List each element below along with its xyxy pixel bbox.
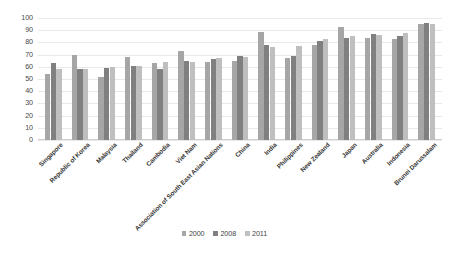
y-axis-tick-label: 100 xyxy=(21,14,33,21)
bars-layer xyxy=(38,18,442,140)
bar[interactable] xyxy=(136,66,141,140)
bar[interactable] xyxy=(285,58,290,140)
y-axis-tick-label: 70 xyxy=(25,51,33,58)
bar[interactable] xyxy=(131,66,136,140)
bar-group xyxy=(120,18,147,140)
bar[interactable] xyxy=(418,24,423,140)
legend-swatch-icon xyxy=(213,231,218,236)
bar-group xyxy=(93,18,120,140)
bar[interactable] xyxy=(77,69,82,140)
x-axis-tick-label: India xyxy=(262,141,277,156)
legend-label: 2000 xyxy=(189,230,205,237)
x-axis-tick-label: Indonesia xyxy=(385,141,411,167)
bar[interactable] xyxy=(104,68,109,140)
bar[interactable] xyxy=(338,27,343,140)
bar-chart: 0102030405060708090100 SingaporeRepublic… xyxy=(0,0,449,257)
gridline xyxy=(38,140,442,141)
legend-item[interactable]: 2008 xyxy=(213,230,236,237)
bar[interactable] xyxy=(152,63,157,140)
bar[interactable] xyxy=(237,56,242,140)
bar[interactable] xyxy=(51,63,56,140)
bar[interactable] xyxy=(45,74,50,140)
y-axis-tick-label: 80 xyxy=(25,39,33,46)
bar[interactable] xyxy=(344,38,349,140)
bar[interactable] xyxy=(157,69,162,140)
bar[interactable] xyxy=(110,67,115,140)
bar[interactable] xyxy=(83,69,88,140)
bar[interactable] xyxy=(323,39,328,140)
bar[interactable] xyxy=(98,77,103,140)
bar[interactable] xyxy=(270,47,275,140)
bar[interactable] xyxy=(317,41,322,140)
plot-area xyxy=(38,18,442,140)
y-axis-tick-label: 50 xyxy=(25,75,33,82)
bar[interactable] xyxy=(216,58,221,140)
x-axis-tick-label: Australia xyxy=(360,141,384,165)
y-axis: 0102030405060708090100 xyxy=(0,18,36,140)
bar-group xyxy=(333,18,360,140)
bar-group xyxy=(40,18,67,140)
x-axis-tick-label: Thailand xyxy=(121,141,144,164)
y-axis-tick-label: 10 xyxy=(25,124,33,131)
x-axis-tick-label: Japan xyxy=(340,141,358,159)
bar-group xyxy=(253,18,280,140)
bar[interactable] xyxy=(392,39,397,140)
chart-legend: 200020082011 xyxy=(0,230,449,237)
bar[interactable] xyxy=(365,38,370,140)
bar[interactable] xyxy=(163,62,168,140)
bar[interactable] xyxy=(125,57,130,140)
x-axis-tick-label: Malaysia xyxy=(94,141,118,165)
bar[interactable] xyxy=(291,56,296,140)
bar[interactable] xyxy=(430,24,435,141)
bar[interactable] xyxy=(72,55,77,140)
bar[interactable] xyxy=(376,35,381,140)
bar-group xyxy=(227,18,254,140)
bar-group xyxy=(387,18,414,140)
legend-label: 2008 xyxy=(220,230,236,237)
bar[interactable] xyxy=(184,61,189,140)
bar-group xyxy=(413,18,440,140)
bar[interactable] xyxy=(296,46,301,140)
bar[interactable] xyxy=(371,34,376,140)
legend-label: 2011 xyxy=(252,230,267,237)
bar[interactable] xyxy=(403,33,408,140)
bar[interactable] xyxy=(178,51,183,140)
legend-item[interactable]: 2000 xyxy=(182,230,205,237)
y-axis-tick-label: 30 xyxy=(25,100,33,107)
bar[interactable] xyxy=(190,62,195,140)
bar-group xyxy=(360,18,387,140)
bar[interactable] xyxy=(350,36,355,140)
x-axis-tick-label: Singapore xyxy=(38,141,65,168)
bar-group xyxy=(280,18,307,140)
bar-group xyxy=(173,18,200,140)
bar[interactable] xyxy=(232,61,237,140)
bar[interactable] xyxy=(243,57,248,140)
y-axis-tick-label: 40 xyxy=(25,88,33,95)
y-axis-tick-label: 0 xyxy=(29,136,33,143)
bar-group xyxy=(307,18,334,140)
bar[interactable] xyxy=(258,32,263,140)
x-axis-tick-label: China xyxy=(234,141,251,158)
legend-swatch-icon xyxy=(182,231,187,236)
x-axis-tick-label: Cambodia xyxy=(144,141,171,168)
bar[interactable] xyxy=(211,59,216,140)
bar[interactable] xyxy=(397,36,402,140)
bar-group xyxy=(67,18,94,140)
y-axis-tick-label: 90 xyxy=(25,27,33,34)
legend-swatch-icon xyxy=(245,231,250,236)
bar[interactable] xyxy=(56,69,61,140)
legend-item[interactable]: 2011 xyxy=(245,230,267,237)
bar-group xyxy=(200,18,227,140)
bar[interactable] xyxy=(264,45,269,140)
y-axis-tick-label: 20 xyxy=(25,112,33,119)
bar[interactable] xyxy=(312,45,317,140)
bar-group xyxy=(147,18,174,140)
bar[interactable] xyxy=(205,62,210,140)
bar[interactable] xyxy=(424,23,429,140)
y-axis-tick-label: 60 xyxy=(25,63,33,70)
x-axis-tick-label: Viet Nam xyxy=(174,141,198,165)
